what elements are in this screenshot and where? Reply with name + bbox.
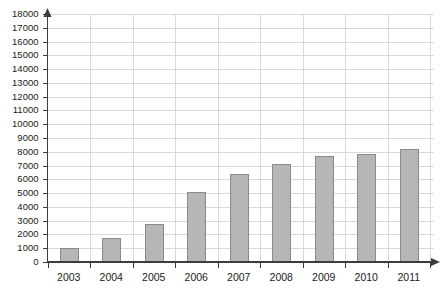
x-axis-tick-label: 2007 — [227, 271, 251, 283]
bar — [358, 155, 376, 263]
bar — [316, 157, 334, 263]
y-axis-tick-label: 13000 — [12, 77, 38, 88]
y-axis-tick-label: 4000 — [17, 201, 38, 212]
chart-canvas: 0100020003000400050006000700080009000100… — [0, 0, 443, 296]
y-axis-tick-label: 9000 — [17, 132, 38, 143]
y-axis-tick-label: 2000 — [17, 228, 38, 239]
y-axis-tick-label: 10000 — [12, 118, 38, 129]
y-axis-tick-label: 16000 — [12, 36, 38, 47]
y-axis-tick-label: 6000 — [17, 173, 38, 184]
x-axis-tick-label: 2003 — [57, 271, 81, 283]
bar — [401, 150, 419, 263]
y-axis-tick-label: 17000 — [12, 22, 38, 33]
x-axis-tick-label: 2009 — [312, 271, 336, 283]
y-axis-tick-label: 15000 — [12, 49, 38, 60]
y-axis-tick-label: 12000 — [12, 91, 38, 102]
y-axis-tick-label: 0 — [33, 256, 38, 267]
bar — [231, 175, 249, 263]
y-axis-tick-label: 5000 — [17, 187, 38, 198]
x-axis-tick-label: 2005 — [142, 271, 166, 283]
y-axis-tick-label: 3000 — [17, 215, 38, 226]
x-axis-tick-label: 2011 — [397, 271, 420, 283]
bar — [188, 193, 206, 263]
bar — [146, 225, 164, 263]
bar — [61, 249, 79, 263]
y-axis-tick-label: 7000 — [17, 160, 38, 171]
x-axis-tick-label: 2006 — [185, 271, 209, 283]
bar — [103, 239, 121, 263]
y-axis-tick-label: 18000 — [12, 8, 38, 19]
x-axis-tick-label: 2010 — [355, 271, 379, 283]
y-axis-tick-label: 8000 — [17, 146, 38, 157]
bar — [273, 165, 291, 263]
y-axis-tick-label: 1000 — [17, 242, 38, 253]
y-axis-tick-label: 14000 — [12, 63, 38, 74]
x-axis-tick-labels: 200320042005200620072008200920102011 — [57, 271, 420, 283]
x-axis-tick-label: 2008 — [270, 271, 294, 283]
x-axis-tick-label: 2004 — [100, 271, 124, 283]
y-axis-tick-label: 11000 — [13, 104, 39, 115]
bar-chart: 0100020003000400050006000700080009000100… — [0, 0, 443, 296]
